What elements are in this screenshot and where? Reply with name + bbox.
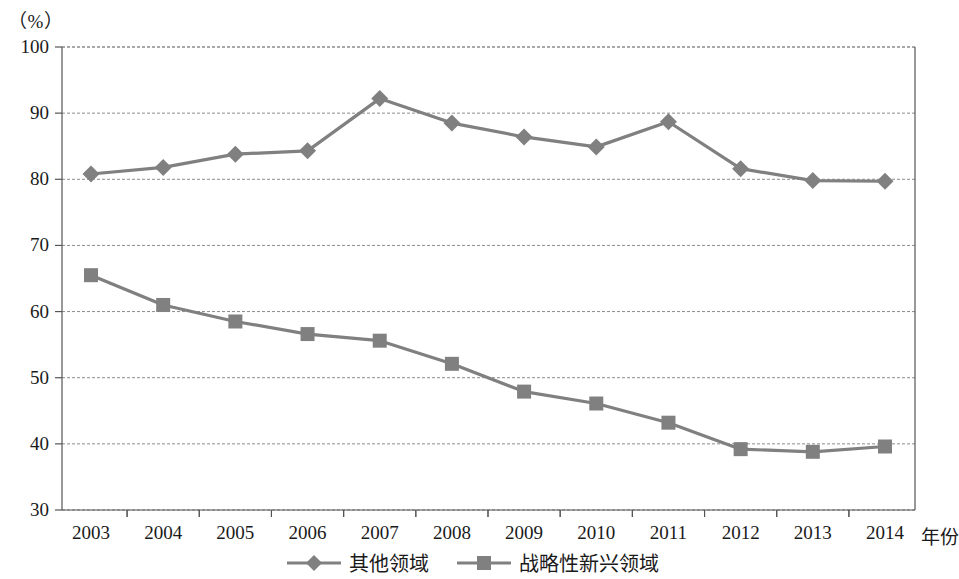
data-point-marker — [445, 357, 459, 371]
data-point-marker — [156, 298, 170, 312]
y-tick-label: 100 — [3, 36, 49, 58]
x-tick-label: 2012 — [709, 522, 773, 544]
series-line-2 — [91, 275, 885, 452]
data-point-marker — [301, 327, 315, 341]
x-tick-label: 2006 — [276, 522, 340, 544]
data-point-marker — [373, 334, 387, 348]
y-tick-label: 80 — [3, 168, 49, 190]
gridlines — [62, 47, 915, 510]
x-tick-label: 2013 — [781, 522, 845, 544]
data-point-marker — [806, 445, 820, 459]
y-tick-label: 30 — [3, 499, 49, 521]
y-tick-label: 70 — [3, 234, 49, 256]
x-tick-label: 2007 — [348, 522, 412, 544]
legend-diamond-marker-icon — [285, 552, 343, 574]
data-point-marker — [227, 146, 244, 163]
data-point-marker — [732, 160, 749, 177]
x-tick-label: 2009 — [492, 522, 556, 544]
x-axis-title: 年份 — [921, 522, 959, 549]
data-point-marker — [516, 128, 533, 145]
data-point-marker — [228, 314, 242, 328]
x-tick-label: 2014 — [853, 522, 917, 544]
data-point-marker — [517, 385, 531, 399]
data-point-marker — [443, 115, 460, 132]
data-point-marker — [83, 165, 100, 182]
x-tick-label: 2010 — [564, 522, 628, 544]
y-tick-label: 50 — [3, 367, 49, 389]
data-point-marker — [588, 138, 605, 155]
series-line-1 — [91, 99, 885, 182]
x-tick-label: 2005 — [203, 522, 267, 544]
data-point-marker — [877, 173, 894, 190]
data-point-marker — [84, 268, 98, 282]
chart-legend: 其他领域战略性新兴领域 — [0, 548, 943, 577]
data-point-marker — [155, 159, 172, 176]
legend-item-1: 其他领域 — [285, 548, 429, 577]
data-point-marker — [660, 113, 677, 130]
x-tick-label: 2004 — [131, 522, 195, 544]
y-tick-label: 90 — [3, 102, 49, 124]
y-tick-label: 40 — [3, 433, 49, 455]
data-point-marker — [589, 397, 603, 411]
legend-item-2: 战略性新兴领域 — [455, 548, 659, 577]
series-layer — [83, 90, 894, 459]
x-tick-label: 2003 — [59, 522, 123, 544]
axis-lines — [62, 47, 915, 510]
legend-label: 战略性新兴领域 — [519, 548, 659, 577]
data-point-marker — [878, 440, 892, 454]
y-tick-label: 60 — [3, 301, 49, 323]
data-point-marker — [734, 442, 748, 456]
data-point-marker — [661, 416, 675, 430]
data-point-marker — [804, 172, 821, 189]
x-tick-label: 2008 — [420, 522, 484, 544]
legend-label: 其他领域 — [349, 548, 429, 577]
legend-square-marker-icon — [455, 552, 513, 574]
x-tick-label: 2011 — [636, 522, 700, 544]
